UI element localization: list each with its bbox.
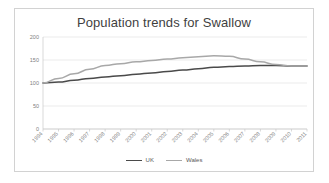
svg-text:2002: 2002 (155, 130, 168, 143)
svg-text:2009: 2009 (264, 130, 277, 143)
chart-legend: UK Wales (15, 157, 313, 163)
svg-text:2006: 2006 (217, 130, 230, 143)
svg-text:2008: 2008 (248, 130, 261, 143)
svg-text:1997: 1997 (77, 130, 90, 143)
svg-text:2011: 2011 (295, 130, 308, 143)
chart-svg: 050100150200 199419951996199719981999200… (15, 9, 315, 173)
y-axis-tick-labels: 050100150200 (30, 34, 39, 132)
svg-text:2010: 2010 (279, 130, 292, 143)
svg-text:2001: 2001 (140, 130, 153, 143)
svg-text:150: 150 (30, 57, 39, 63)
svg-text:2000: 2000 (124, 130, 137, 143)
svg-text:1995: 1995 (46, 130, 59, 143)
svg-text:1999: 1999 (108, 130, 121, 143)
svg-text:100: 100 (30, 80, 39, 86)
gridlines (43, 37, 307, 132)
legend-label-uk: UK (146, 157, 154, 163)
svg-text:200: 200 (30, 34, 39, 40)
x-axis-tick-labels: 1994199519961997199819992000200120022003… (31, 130, 308, 143)
legend-swatch-uk-icon (126, 160, 142, 161)
legend-item-uk[interactable]: UK (126, 157, 154, 163)
svg-text:2004: 2004 (186, 130, 199, 143)
svg-text:2005: 2005 (202, 130, 215, 143)
svg-text:1994: 1994 (31, 130, 44, 143)
svg-text:50: 50 (33, 103, 39, 109)
chart-container: Population trends for Swallow 0501001502… (14, 8, 314, 172)
plot-area: 050100150200 199419951996199719981999200… (15, 9, 315, 173)
svg-text:1998: 1998 (93, 130, 106, 143)
svg-text:2003: 2003 (171, 130, 184, 143)
legend-swatch-wales-icon (166, 160, 182, 161)
legend-label-wales: Wales (186, 157, 202, 163)
legend-item-wales[interactable]: Wales (166, 157, 202, 163)
svg-text:2007: 2007 (233, 130, 246, 143)
svg-text:1996: 1996 (62, 130, 75, 143)
series-line-uk (43, 66, 307, 83)
